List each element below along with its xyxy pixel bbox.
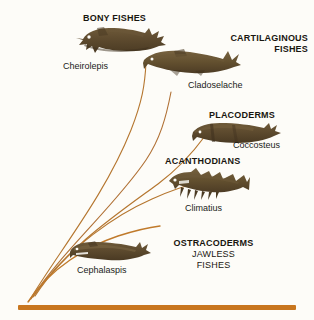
- fish-climatius: [169, 168, 250, 200]
- group-label-cartilaginous-fishes: CARTILAGINOUS FISHES: [186, 33, 308, 55]
- group-label-bony-fishes: BONY FISHES: [83, 13, 146, 24]
- group-label-acanthodians: ACANTHODIANS: [165, 156, 240, 167]
- genus-label-coccosteus: Coccosteus: [233, 140, 280, 151]
- fish-cephalaspis: [70, 241, 151, 260]
- fish-cheirolepis: [76, 27, 166, 53]
- group-label-ostracoderms: OSTRACODERMS JAWLESS FISHES: [161, 238, 266, 271]
- timeline-baseline: [18, 305, 296, 310]
- group-label-ostracoderms-line3: FISHES: [161, 260, 266, 271]
- branch-ostracoderms: [28, 226, 160, 302]
- group-label-cartilaginous-line2: FISHES: [186, 44, 308, 55]
- group-label-ostracoderms-line1: OSTRACODERMS: [161, 238, 266, 249]
- genus-label-climatius: Climatius: [185, 203, 222, 214]
- group-label-cartilaginous-line1: CARTILAGINOUS: [186, 33, 308, 44]
- group-label-placoderms: PLACODERMS: [209, 110, 275, 121]
- genus-label-cladoselache: Cladoselache: [188, 80, 243, 91]
- genus-label-cephalaspis: Cephalaspis: [77, 265, 127, 276]
- group-label-ostracoderms-line2: JAWLESS: [161, 249, 266, 260]
- genus-label-cheirolepis: Cheirolepis: [63, 61, 108, 72]
